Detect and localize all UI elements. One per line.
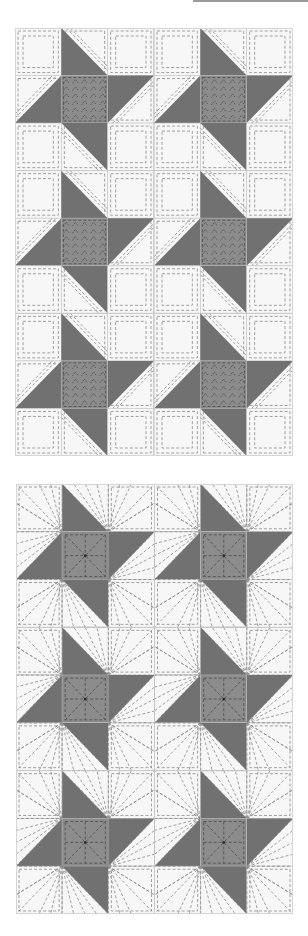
block-cell-center xyxy=(62,532,108,580)
block-cell-tri-left xyxy=(155,818,201,866)
block-cell-tri-bottom xyxy=(61,266,107,314)
block-cell-tri-right xyxy=(247,818,293,866)
block-cell-light xyxy=(155,627,201,675)
block-cell-light xyxy=(247,723,293,771)
block-cell-light xyxy=(15,408,61,456)
block-cell-center xyxy=(61,76,107,124)
block-cell-light xyxy=(108,123,154,171)
quilt-diagram-1 xyxy=(15,28,293,456)
star-block xyxy=(15,171,154,314)
block-cell-light xyxy=(247,123,293,171)
block-cell-tri-right xyxy=(108,361,154,409)
block-cell-tri-left xyxy=(154,218,200,266)
block-cell-tri-top xyxy=(61,313,107,361)
block-cell-tri-top xyxy=(200,313,246,361)
block-cell-light xyxy=(247,866,293,914)
block-cell-tri-left xyxy=(155,532,201,580)
block-cell-tri-left xyxy=(15,76,61,124)
block-cell-tri-top xyxy=(200,171,246,219)
block-cell-light xyxy=(155,866,201,914)
block-cell-light xyxy=(247,580,293,628)
block-cell-tri-bottom xyxy=(62,580,108,628)
block-cell-light xyxy=(108,408,154,456)
block-cell-light xyxy=(247,627,293,675)
block-cell-tri-bottom xyxy=(200,123,246,171)
quilt-diagram-radial xyxy=(16,484,293,914)
block-cell-tri-bottom xyxy=(201,723,247,771)
block-cell-tri-left xyxy=(15,218,61,266)
block-cell-tri-top xyxy=(201,771,247,819)
star-block xyxy=(154,28,293,171)
block-cell-light xyxy=(15,313,61,361)
block-cell-light xyxy=(108,313,154,361)
quilt-diagram-2 xyxy=(16,484,293,914)
block-cell-center xyxy=(62,818,108,866)
star-block xyxy=(15,28,154,171)
block-cell-center xyxy=(200,361,246,409)
block-cell-light xyxy=(154,123,200,171)
block-cell-tri-left xyxy=(155,675,201,723)
block-cell-tri-top xyxy=(61,171,107,219)
block-cell-light xyxy=(15,28,61,76)
star-block xyxy=(154,313,293,456)
block-cell-tri-right xyxy=(247,532,293,580)
block-cell-tri-top xyxy=(201,627,247,675)
block-cell-tri-right xyxy=(247,361,293,409)
block-cell-light xyxy=(108,171,154,219)
block-cell-tri-top xyxy=(201,484,247,532)
block-cell-center xyxy=(62,675,108,723)
block-cell-light xyxy=(247,266,293,314)
block-cell-tri-bottom xyxy=(201,580,247,628)
block-cell-tri-right xyxy=(108,675,154,723)
block-cell-light xyxy=(154,408,200,456)
block-cell-light xyxy=(155,771,201,819)
block-cell-light xyxy=(16,627,62,675)
quilt-diagram-nested-squares xyxy=(15,28,293,456)
block-cell-tri-right xyxy=(247,218,293,266)
block-cell-tri-left xyxy=(16,818,62,866)
block-cell-tri-left xyxy=(16,675,62,723)
block-cell-tri-bottom xyxy=(200,266,246,314)
block-cell-tri-left xyxy=(154,361,200,409)
block-cell-tri-bottom xyxy=(62,723,108,771)
block-cell-tri-left xyxy=(15,361,61,409)
block-cell-light xyxy=(154,266,200,314)
block-cell-center xyxy=(61,361,107,409)
block-cell-light xyxy=(154,171,200,219)
block-cell-light xyxy=(247,313,293,361)
block-cell-tri-bottom xyxy=(62,866,108,914)
block-cell-center xyxy=(201,818,247,866)
block-cell-light xyxy=(108,484,154,532)
star-block xyxy=(155,627,294,770)
top-divider-line xyxy=(193,0,308,2)
block-cell-tri-left xyxy=(154,76,200,124)
block-cell-center xyxy=(200,218,246,266)
block-cell-center xyxy=(201,675,247,723)
block-cell-light xyxy=(16,866,62,914)
block-cell-light xyxy=(247,408,293,456)
block-cell-light xyxy=(247,28,293,76)
block-cell-tri-bottom xyxy=(61,408,107,456)
block-cell-light xyxy=(108,266,154,314)
block-cell-tri-top xyxy=(62,627,108,675)
block-cell-tri-top xyxy=(62,484,108,532)
block-cell-light xyxy=(16,771,62,819)
star-block xyxy=(15,313,154,456)
block-cell-light xyxy=(16,723,62,771)
block-cell-tri-right xyxy=(108,76,154,124)
block-cell-light xyxy=(15,171,61,219)
block-cell-light xyxy=(155,723,201,771)
block-cell-light xyxy=(155,580,201,628)
star-block xyxy=(16,484,155,627)
block-cell-light xyxy=(108,723,154,771)
block-cell-light xyxy=(108,771,154,819)
block-cell-tri-top xyxy=(61,28,107,76)
block-cell-center xyxy=(201,532,247,580)
block-cell-light xyxy=(154,28,200,76)
block-cell-tri-right xyxy=(108,532,154,580)
block-cell-tri-top xyxy=(200,28,246,76)
block-cell-tri-right xyxy=(108,218,154,266)
block-cell-tri-bottom xyxy=(200,408,246,456)
block-cell-center xyxy=(61,218,107,266)
block-cell-light xyxy=(155,484,201,532)
